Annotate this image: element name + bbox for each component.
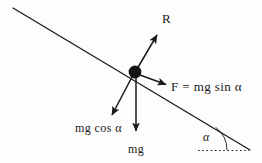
parallel-force-label: F = mg sin α bbox=[171, 80, 242, 93]
parallel-force-arrow bbox=[140, 75, 166, 85]
block-particle bbox=[129, 66, 142, 79]
incline-angle-label: α bbox=[203, 131, 209, 143]
normal-force-arrow bbox=[137, 35, 157, 69]
normal-force-label: R bbox=[162, 12, 171, 25]
weight-label: mg bbox=[128, 143, 144, 155]
perpendicular-component-label: mg cos α bbox=[75, 122, 122, 134]
perpendicular-component-arrow bbox=[112, 77, 132, 115]
physics-diagram-canvas: R F = mg sin α mg cos α mg α bbox=[0, 0, 262, 163]
